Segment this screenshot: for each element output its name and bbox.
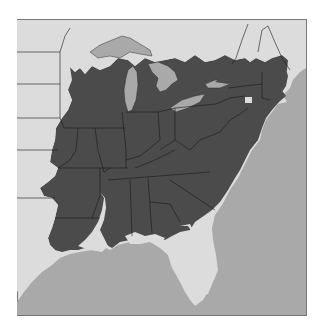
ny-gap xyxy=(245,97,252,103)
range-map xyxy=(0,0,323,330)
